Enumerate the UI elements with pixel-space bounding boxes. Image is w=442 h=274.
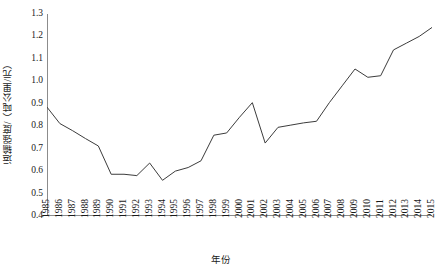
plot-area <box>47 14 432 216</box>
x-axis-title: 年份 <box>0 256 442 266</box>
axis-group <box>48 14 433 216</box>
y-tick-label: 1.3 <box>31 9 43 19</box>
y-tick-label: 1.1 <box>31 54 43 64</box>
y-tick-label: 0.8 <box>31 121 43 131</box>
data-series-line <box>47 27 432 180</box>
x-tick-label: 1996 <box>183 199 193 218</box>
y-tick-label: 0.6 <box>31 166 43 176</box>
x-tick-label: 1991 <box>119 199 129 218</box>
x-tick-label: 2005 <box>299 199 309 218</box>
x-tick-label: 1994 <box>158 199 168 218</box>
x-tick-label: 2013 <box>401 199 411 218</box>
x-tick-label: 2004 <box>286 199 296 218</box>
x-tick-label: 1998 <box>209 199 219 218</box>
y-axis-title: 运输强度/（吨公里/元） <box>0 0 18 224</box>
x-tick-label: 2006 <box>312 199 322 218</box>
x-tick-label: 2011 <box>376 199 386 218</box>
x-tick-label: 1989 <box>93 199 103 218</box>
line-chart-svg <box>47 14 432 216</box>
x-tick-label: 1997 <box>196 199 206 218</box>
x-tick-label: 1988 <box>81 199 91 218</box>
y-tick-label: 0.5 <box>31 189 43 199</box>
y-axis-title-text: 运输强度/（吨公里/元） <box>4 59 14 164</box>
x-tick-label: 1987 <box>68 199 78 218</box>
y-tick-label: 1.0 <box>31 77 43 87</box>
x-tick-label: 2000 <box>235 199 245 218</box>
y-tick-label: 0.7 <box>31 144 43 154</box>
x-tick-label: 2007 <box>324 199 334 218</box>
y-axis-tick-labels: 0.40.50.60.70.80.91.01.11.21.3 <box>18 0 46 224</box>
x-tick-label: 2015 <box>427 199 437 218</box>
x-tick-label: 2002 <box>260 199 270 218</box>
x-tick-label: 1995 <box>170 199 180 218</box>
x-tick-label: 1985 <box>42 199 52 218</box>
x-tick-label: 1999 <box>222 199 232 218</box>
x-tick-label: 1993 <box>145 199 155 218</box>
x-tick-label: 2012 <box>389 199 399 218</box>
chart-figure: 运输强度/（吨公里/元） 0.40.50.60.70.80.91.01.11.2… <box>0 0 442 274</box>
x-tick-label: 1992 <box>132 199 142 218</box>
x-tick-label: 2010 <box>363 199 373 218</box>
x-tick-label: 2001 <box>247 199 257 218</box>
x-tick-label: 2003 <box>273 199 283 218</box>
x-tick-label: 2008 <box>337 199 347 218</box>
x-axis-title-text: 年份 <box>211 255 231 265</box>
x-tick-label: 2009 <box>350 199 360 218</box>
x-tick-label: 1990 <box>106 199 116 218</box>
x-tick-label: 2014 <box>414 199 424 218</box>
y-tick-label: 1.2 <box>31 32 43 42</box>
x-axis-tick-labels: 1985198619871988198919901991199219931994… <box>47 218 432 252</box>
y-tick-label: 0.9 <box>31 99 43 109</box>
x-tick-label: 1986 <box>55 199 65 218</box>
